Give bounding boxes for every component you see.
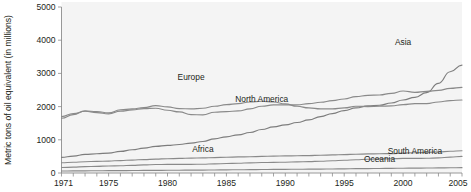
y-tick-label: 3000 [36, 68, 55, 78]
series-label-south-america: South America [388, 146, 443, 156]
y-tick-label: 5000 [36, 2, 55, 12]
x-tick-label: 1995 [335, 178, 354, 188]
series-label-africa: Africa [192, 144, 214, 154]
x-tick-label: 1985 [217, 178, 236, 188]
y-tick-label: 4000 [36, 35, 55, 45]
series-label-europe: Europe [178, 72, 205, 82]
y-axis: 010002000300040005000 [36, 2, 61, 178]
x-tick-label: 1980 [158, 178, 177, 188]
chart-figure: 010002000300040005000 197119751980198519… [0, 0, 471, 192]
y-tick-label: 2000 [36, 102, 55, 112]
x-tick-label: 1990 [276, 178, 295, 188]
y-tick-label: 1000 [36, 135, 55, 145]
x-tick-label: 1971 [54, 178, 73, 188]
series-label-oceania: Oceania [364, 154, 396, 164]
x-axis: 19711975198019851990199520002005 [54, 173, 468, 188]
line-chart: 010002000300040005000 197119751980198519… [0, 0, 471, 192]
y-tick-label: 0 [51, 168, 56, 178]
x-tick-label: 2005 [448, 178, 467, 188]
x-tick-label: 1975 [99, 178, 118, 188]
series-label-asia: Asia [395, 37, 412, 47]
series-label-north-america: North America [235, 94, 288, 104]
x-tick-label: 2000 [394, 178, 413, 188]
y-axis-title: Metric tons of oil equivalent (in millio… [3, 15, 13, 165]
